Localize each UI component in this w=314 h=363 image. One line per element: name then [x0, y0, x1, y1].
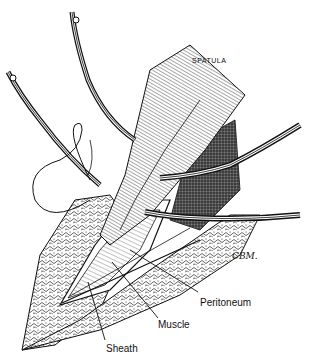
- label-muscle: Muscle: [158, 320, 190, 330]
- retractor-upper-middle: [72, 12, 135, 140]
- label-sheath: Sheath: [106, 344, 138, 354]
- label-spatula: SPATULA: [192, 57, 226, 64]
- retractor-right-lower: [145, 212, 300, 219]
- artist-signature: CBM.: [232, 252, 258, 261]
- retractor-upper-left: [8, 72, 100, 185]
- illustration-drawing: [0, 0, 314, 363]
- surgical-illustration: SPATULA Peritoneum Muscle Sheath CBM.: [0, 0, 314, 363]
- label-peritoneum: Peritoneum: [200, 298, 251, 308]
